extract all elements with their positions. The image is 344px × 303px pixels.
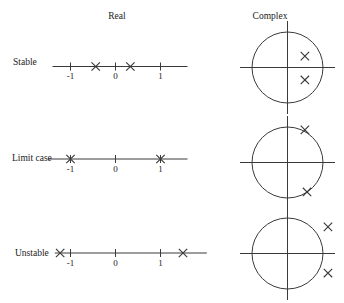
row-label-limit-case: Limit case — [12, 153, 52, 163]
pole-mark-complex — [301, 76, 309, 84]
stability-diagram: Real Complex Stable Limit case Unstable … — [0, 0, 344, 303]
column-header-real: Real — [97, 11, 137, 21]
tick-label: -1 — [63, 258, 79, 268]
tick-label: -1 — [63, 164, 79, 174]
row-label-stable: Stable — [13, 57, 37, 67]
tick-label: 1 — [153, 71, 169, 81]
pole-mark-complex — [324, 223, 332, 231]
tick-label: 0 — [108, 71, 124, 81]
row-label-unstable: Unstable — [15, 248, 49, 258]
column-header-complex: Complex — [250, 11, 290, 21]
tick-label: 0 — [108, 258, 124, 268]
pole-mark-complex — [324, 269, 332, 277]
tick-label: 1 — [153, 258, 169, 268]
tick-label: 1 — [153, 164, 169, 174]
tick-label: -1 — [63, 71, 79, 81]
pole-mark-complex — [301, 52, 309, 60]
diagram-canvas — [0, 0, 344, 303]
pole-mark-complex — [303, 188, 311, 196]
tick-label: 0 — [108, 164, 124, 174]
